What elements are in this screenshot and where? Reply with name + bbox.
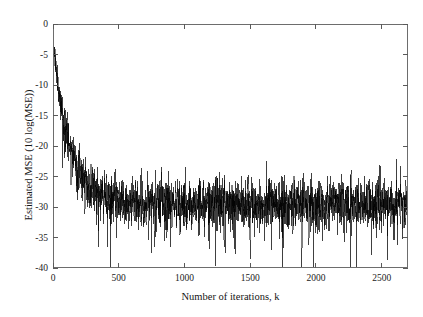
y-axis-title-wrapper: Estimated MSE (10 log(MSE)) [18,33,36,277]
y-tick-mark [403,54,408,55]
y-tick-mark [403,268,408,269]
x-tick-mark [315,24,316,29]
plot-area [53,24,408,268]
y-tick-mark [53,54,58,55]
y-tick-mark [403,237,408,238]
y-tick-mark [53,207,58,208]
y-tick-mark [53,176,58,177]
x-tick-mark [53,24,54,29]
x-tick-mark [118,263,119,268]
y-tick-mark [53,268,58,269]
x-tick-mark [315,263,316,268]
y-tick-mark [53,24,58,25]
y-tick-label: 0 [22,19,48,29]
y-tick-mark [403,176,408,177]
x-tick-mark [381,263,382,268]
x-tick-mark [118,24,119,29]
y-tick-mark [403,207,408,208]
x-tick-mark [184,263,185,268]
x-tick-label: 2000 [294,273,338,283]
x-tick-label: 1500 [228,273,272,283]
y-tick-mark [53,237,58,238]
y-axis-title: Estimated MSE (10 log(MSE)) [23,90,34,221]
y-tick-mark [403,115,408,116]
x-axis-title: Number of iterations, k [53,291,408,302]
y-tick-mark [53,85,58,86]
x-tick-mark [250,24,251,29]
mse-learning-curve-figure: 0-5-10-15-20-25-30-35-40 050010001500200… [0,0,423,317]
x-tick-label: 500 [97,273,141,283]
x-tick-mark [184,24,185,29]
y-tick-mark [403,146,408,147]
x-tick-mark [53,263,54,268]
x-tick-label: 0 [31,273,75,283]
x-tick-label: 1000 [162,273,206,283]
y-tick-mark [53,146,58,147]
y-tick-mark [403,85,408,86]
x-tick-mark [250,263,251,268]
y-tick-mark [403,24,408,25]
x-tick-mark [381,24,382,29]
y-tick-mark [53,115,58,116]
mse-series-path [54,25,407,267]
x-tick-label: 2500 [360,273,404,283]
